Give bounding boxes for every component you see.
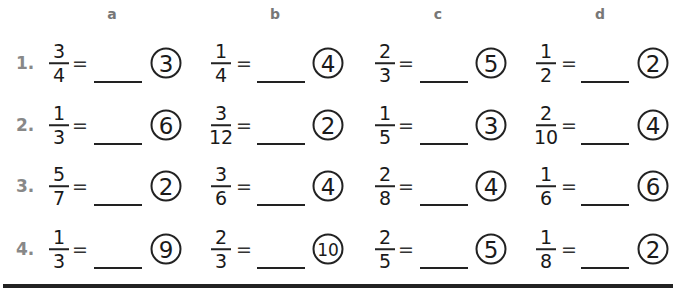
equals-sign: = bbox=[561, 238, 577, 260]
denominator: 3 bbox=[379, 65, 391, 85]
equals-sign: = bbox=[72, 114, 88, 136]
column-header-a: a bbox=[107, 6, 116, 22]
denominator: 7 bbox=[53, 188, 65, 208]
fraction: 23 bbox=[372, 41, 398, 85]
fraction: 312 bbox=[208, 103, 234, 147]
numerator: 1 bbox=[215, 41, 227, 61]
fraction: 13 bbox=[46, 103, 72, 147]
numerator: 2 bbox=[540, 103, 552, 123]
circled-number: 4 bbox=[476, 171, 507, 202]
denominator: 8 bbox=[540, 251, 552, 271]
numerator: 2 bbox=[215, 227, 227, 247]
denominator: 8 bbox=[379, 188, 391, 208]
fraction: 15 bbox=[372, 103, 398, 147]
equals-sign: = bbox=[398, 175, 414, 197]
denominator: 6 bbox=[215, 188, 227, 208]
circled-number: 3 bbox=[151, 48, 182, 79]
equals-sign: = bbox=[561, 52, 577, 74]
answer-blank[interactable] bbox=[94, 267, 142, 269]
equals-sign: = bbox=[236, 238, 252, 260]
equals-sign: = bbox=[561, 114, 577, 136]
equals-sign: = bbox=[398, 52, 414, 74]
equals-sign: = bbox=[72, 175, 88, 197]
numerator: 2 bbox=[379, 164, 391, 184]
equals-sign: = bbox=[236, 114, 252, 136]
fraction: 13 bbox=[46, 227, 72, 271]
circled-number: 5 bbox=[476, 234, 507, 265]
denominator: 3 bbox=[215, 251, 227, 271]
equals-sign: = bbox=[236, 52, 252, 74]
numerator: 3 bbox=[215, 103, 227, 123]
answer-blank[interactable] bbox=[94, 204, 142, 206]
answer-blank[interactable] bbox=[420, 267, 468, 269]
equals-sign: = bbox=[72, 52, 88, 74]
answer-blank[interactable] bbox=[581, 204, 629, 206]
circled-number: 6 bbox=[638, 171, 669, 202]
equals-sign: = bbox=[72, 238, 88, 260]
circled-number: 2 bbox=[313, 110, 344, 141]
circled-number: 4 bbox=[638, 110, 669, 141]
fraction: 25 bbox=[372, 227, 398, 271]
denominator: 2 bbox=[540, 65, 552, 85]
denominator: 3 bbox=[53, 127, 65, 147]
denominator: 4 bbox=[215, 65, 227, 85]
denominator: 6 bbox=[540, 188, 552, 208]
numerator: 3 bbox=[53, 41, 65, 61]
row-number: 3. bbox=[16, 176, 34, 196]
equals-sign: = bbox=[398, 114, 414, 136]
row-number: 2. bbox=[16, 115, 34, 135]
denominator: 3 bbox=[53, 251, 65, 271]
numerator: 5 bbox=[53, 164, 65, 184]
numerator: 1 bbox=[540, 227, 552, 247]
answer-blank[interactable] bbox=[257, 267, 305, 269]
column-header-c: c bbox=[434, 6, 442, 22]
denominator: 5 bbox=[379, 127, 391, 147]
equals-sign: = bbox=[236, 175, 252, 197]
fraction: 34 bbox=[46, 41, 72, 85]
circled-number: 6 bbox=[151, 110, 182, 141]
denominator: 4 bbox=[53, 65, 65, 85]
circled-number: 5 bbox=[476, 48, 507, 79]
denominator: 12 bbox=[209, 127, 233, 147]
numerator: 3 bbox=[215, 164, 227, 184]
circled-number: 4 bbox=[313, 171, 344, 202]
fraction: 210 bbox=[533, 103, 559, 147]
answer-blank[interactable] bbox=[257, 204, 305, 206]
fraction: 36 bbox=[208, 164, 234, 208]
numerator: 1 bbox=[53, 227, 65, 247]
circled-number: 2 bbox=[151, 171, 182, 202]
fraction: 16 bbox=[533, 164, 559, 208]
fraction: 14 bbox=[208, 41, 234, 85]
circled-number: 2 bbox=[638, 234, 669, 265]
numerator: 1 bbox=[540, 164, 552, 184]
fraction: 18 bbox=[533, 227, 559, 271]
denominator: 10 bbox=[534, 127, 558, 147]
fraction: 28 bbox=[372, 164, 398, 208]
answer-blank[interactable] bbox=[581, 81, 629, 83]
numerator: 1 bbox=[540, 41, 552, 61]
row-number: 1. bbox=[16, 53, 34, 73]
row-number: 4. bbox=[16, 239, 34, 259]
circled-number: 10 bbox=[313, 234, 344, 265]
answer-blank[interactable] bbox=[94, 143, 142, 145]
answer-blank[interactable] bbox=[420, 204, 468, 206]
fraction: 23 bbox=[208, 227, 234, 271]
answer-blank[interactable] bbox=[257, 81, 305, 83]
denominator: 5 bbox=[379, 251, 391, 271]
numerator: 2 bbox=[379, 227, 391, 247]
answer-blank[interactable] bbox=[94, 81, 142, 83]
answer-blank[interactable] bbox=[257, 143, 305, 145]
answer-blank[interactable] bbox=[420, 143, 468, 145]
bottom-rule bbox=[3, 284, 673, 288]
column-header-b: b bbox=[270, 6, 280, 22]
numerator: 1 bbox=[379, 103, 391, 123]
circled-number: 3 bbox=[476, 110, 507, 141]
fraction: 12 bbox=[533, 41, 559, 85]
answer-blank[interactable] bbox=[581, 143, 629, 145]
answer-blank[interactable] bbox=[581, 267, 629, 269]
equals-sign: = bbox=[561, 175, 577, 197]
column-header-d: d bbox=[595, 6, 605, 22]
equals-sign: = bbox=[398, 238, 414, 260]
fraction: 57 bbox=[46, 164, 72, 208]
answer-blank[interactable] bbox=[420, 81, 468, 83]
